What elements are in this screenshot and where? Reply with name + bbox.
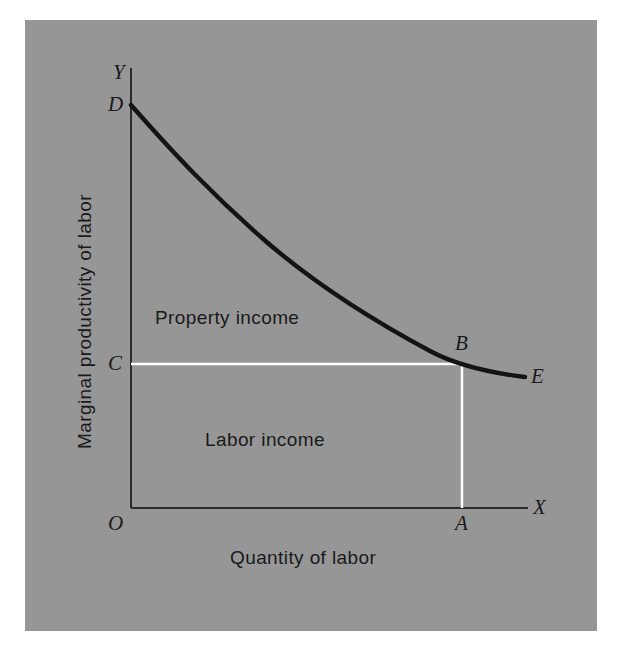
- point-label-Y: Y: [113, 62, 125, 83]
- region-label-labor-income: Labor income: [205, 430, 325, 449]
- point-label-C: C: [108, 353, 122, 374]
- point-label-O: O: [108, 513, 123, 534]
- x-axis-title: Quantity of labor: [230, 548, 376, 567]
- point-label-E: E: [531, 366, 544, 387]
- point-label-D: D: [108, 94, 123, 115]
- y-axis-title: Marginal productivity of labor: [75, 194, 94, 449]
- region-label-property-income: Property income: [155, 308, 299, 327]
- point-label-A: A: [455, 513, 468, 534]
- point-label-X: X: [533, 497, 546, 518]
- point-label-B: B: [455, 333, 468, 354]
- figure-page: Y D C B A E X O Property income Labor in…: [0, 0, 619, 651]
